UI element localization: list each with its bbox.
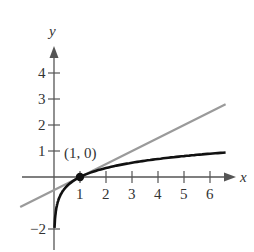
- x-axis-label: x: [239, 169, 247, 185]
- y-tick-label: −2: [30, 221, 46, 237]
- y-tick-label: 3: [38, 91, 46, 107]
- y-axis-label: y: [47, 23, 56, 39]
- x-axis-arrow-icon: [224, 173, 236, 182]
- x-tick-label: 3: [128, 186, 136, 202]
- point-label: (1, 0): [64, 145, 97, 162]
- point-marker: [76, 173, 84, 181]
- x-ticks: 123456: [76, 171, 214, 202]
- y-tick-label: 2: [38, 117, 46, 133]
- x-tick-label: 4: [154, 186, 162, 202]
- y-tick-label: 1: [38, 143, 46, 159]
- x-tick-label: 6: [206, 186, 214, 202]
- x-tick-label: 2: [102, 186, 110, 202]
- y-axis-arrow-icon: [50, 46, 59, 58]
- chart: 123456 −21234 x y (1, 0): [0, 0, 254, 252]
- x-tick-label: 5: [180, 186, 188, 202]
- y-tick-label: 4: [38, 65, 46, 81]
- x-tick-label: 1: [76, 186, 84, 202]
